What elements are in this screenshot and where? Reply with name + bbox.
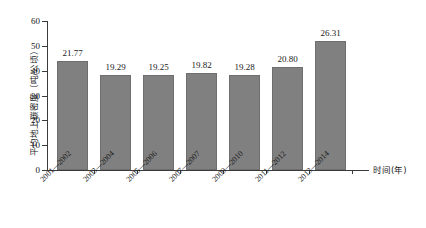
bar-value-label: 26.31: [308, 29, 353, 38]
bar-value-label: 19.28: [222, 63, 267, 72]
y-tick: [42, 46, 47, 47]
bar-value-label: 19.82: [179, 61, 224, 70]
y-tick: [42, 71, 47, 72]
y-tick-label: 60: [14, 17, 40, 26]
bar-chart: 平均地上碳密度（吨/公顷） 0102030405060 21.7719.2919…: [0, 0, 426, 228]
y-tick: [42, 21, 47, 22]
y-tick-label: 10: [14, 141, 40, 150]
bar-value-label: 20.80: [265, 55, 310, 64]
y-tick-label: 50: [14, 42, 40, 51]
y-tick: [42, 120, 47, 121]
bar-value-label: 21.77: [50, 49, 95, 58]
y-tick-label: 20: [14, 116, 40, 125]
x-tick: [352, 170, 353, 174]
y-tick: [42, 96, 47, 97]
y-tick-label: 0: [14, 166, 40, 175]
y-tick-label: 40: [14, 67, 40, 76]
bar-value-label: 19.29: [93, 63, 138, 72]
y-axis-line: [47, 21, 48, 171]
x-axis-title: 时间(年): [373, 166, 407, 175]
bar: [315, 41, 346, 170]
bar-value-label: 19.25: [136, 63, 181, 72]
y-tick: [42, 145, 47, 146]
y-tick-label: 30: [14, 92, 40, 101]
